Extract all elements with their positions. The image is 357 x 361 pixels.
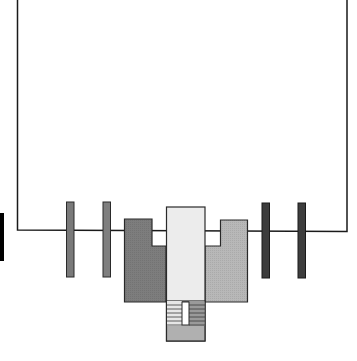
enclosure-outline — [18, 0, 348, 232]
stair-landing — [182, 302, 189, 325]
pillar-right-2 — [298, 203, 306, 278]
pillar-left-1 — [67, 202, 75, 277]
pillar-right-1 — [262, 203, 270, 278]
staircase — [167, 301, 205, 326]
marker-bar — [0, 213, 4, 261]
pillar-left-2 — [103, 202, 111, 277]
plan-diagram — [0, 0, 357, 361]
